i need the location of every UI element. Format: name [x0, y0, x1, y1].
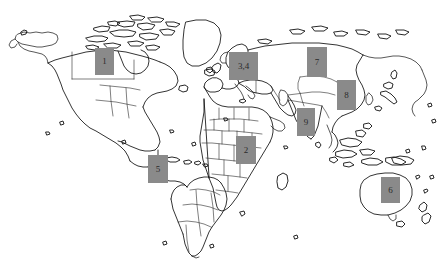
map-marker-site-6[interactable]: 6 [381, 177, 400, 203]
map-marker-label: 7 [315, 57, 320, 66]
map-marker-site-2[interactable]: 2 [236, 136, 256, 164]
map-marker-site-9[interactable]: 9 [297, 108, 315, 136]
map-marker-label: 3,4 [238, 61, 249, 70]
map-marker-label: 2 [244, 145, 249, 154]
map-marker-label: 5 [156, 164, 161, 173]
map-marker-label: 8 [344, 90, 349, 99]
map-marker-label: 6 [388, 185, 393, 194]
map-marker-site-3-4[interactable]: 3,4 [229, 52, 258, 80]
map-marker-site-7[interactable]: 7 [307, 47, 327, 77]
map-marker-site-1[interactable]: 1 [95, 48, 114, 75]
map-marker-label: 9 [304, 117, 309, 126]
map-marker-label: 1 [102, 57, 107, 66]
map-marker-site-8[interactable]: 8 [337, 80, 356, 110]
world-map-figure: 1 3,4 7 8 9 2 5 6 [0, 0, 438, 261]
map-marker-site-5[interactable]: 5 [148, 155, 168, 183]
world-map-outline [0, 0, 438, 261]
